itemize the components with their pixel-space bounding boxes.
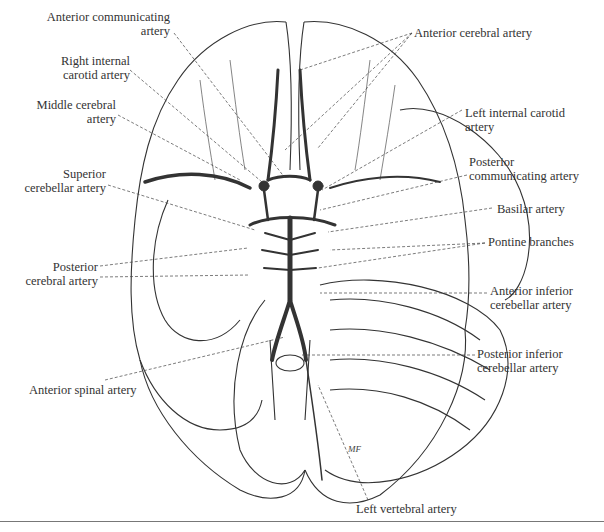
brain-artery-diagram: MF Anterior communicating artery Right i…	[0, 0, 604, 532]
label-superior-cerebellar-artery: Superior cerebellar artery	[10, 167, 106, 195]
label-line: artery	[465, 120, 565, 134]
label-line: carotid artery	[30, 68, 130, 82]
label-line: Left vertebral artery	[356, 502, 457, 516]
label-line: Right internal	[30, 54, 130, 68]
label-line: Basilar artery	[497, 202, 565, 216]
label-line: artery	[36, 24, 170, 38]
label-middle-cerebral-artery: Middle cerebral artery	[20, 98, 116, 126]
label-line: cerebellar artery	[490, 298, 573, 312]
leader-lines	[100, 33, 492, 500]
label-line: Posterior	[10, 260, 98, 274]
label-line: Left internal carotid	[465, 106, 565, 120]
label-anterior-communicating-artery: Anterior communicating artery	[36, 10, 170, 38]
label-line: Superior	[10, 167, 106, 181]
arteries	[145, 70, 440, 480]
label-left-internal-carotid-artery: Left internal carotid artery	[465, 106, 565, 134]
label-line: Anterior cerebral artery	[414, 26, 532, 40]
label-line: Posterior	[469, 155, 579, 169]
label-line: Posterior inferior	[477, 347, 563, 361]
label-posterior-communicating-artery: Posterior communicating artery	[469, 155, 579, 183]
label-line: cerebral artery	[10, 274, 98, 288]
label-posterior-inferior-cerebellar-artery: Posterior inferior cerebellar artery	[477, 347, 563, 375]
label-anterior-cerebral-artery: Anterior cerebral artery	[414, 26, 532, 40]
label-line: Anterior spinal artery	[29, 383, 137, 397]
label-line: cerebellar artery	[477, 361, 563, 375]
label-line: Anterior communicating	[36, 10, 170, 24]
label-line: communicating artery	[469, 169, 579, 183]
label-pontine-branches: Pontine branches	[488, 235, 574, 249]
label-line: cerebellar artery	[10, 181, 106, 195]
label-line: Pontine branches	[488, 235, 574, 249]
brain-outline	[131, 22, 529, 503]
label-line: Anterior inferior	[490, 284, 573, 298]
label-left-vertebral-artery: Left vertebral artery	[356, 502, 457, 516]
label-anterior-spinal-artery: Anterior spinal artery	[29, 383, 137, 397]
divider-rule	[0, 521, 604, 522]
label-anterior-inferior-cerebellar-artery: Anterior inferior cerebellar artery	[490, 284, 573, 312]
label-right-internal-carotid-artery: Right internal carotid artery	[30, 54, 130, 82]
label-line: Middle cerebral	[20, 98, 116, 112]
label-posterior-cerebral-artery: Posterior cerebral artery	[10, 260, 98, 288]
label-line: artery	[20, 112, 116, 126]
illustrator-signature: MF	[347, 444, 361, 454]
label-basilar-artery: Basilar artery	[497, 202, 565, 216]
